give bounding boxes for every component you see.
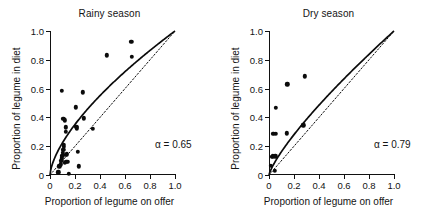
y-tick-label-dry-0: 0 xyxy=(258,170,263,181)
y-tick-label-rainy-3: 0.6 xyxy=(31,83,44,94)
y-tick-dry-1 xyxy=(265,146,269,147)
data-point xyxy=(67,171,71,175)
x-axis-title-rainy: Proportion of legume on offer xyxy=(0,196,219,207)
y-tick-label-dry-5: 1.0 xyxy=(250,26,263,37)
x-tick-label-rainy-4: 0.8 xyxy=(143,180,156,191)
y-tick-label-dry-4: 0.8 xyxy=(250,54,263,65)
y-tick-label-rainy-0: 0 xyxy=(39,170,44,181)
x-tick-rainy-0 xyxy=(50,175,51,179)
y-tick-rainy-2 xyxy=(46,117,50,118)
y-tick-label-dry-2: 0.4 xyxy=(250,112,263,123)
y-tick-label-rainy-2: 0.4 xyxy=(31,112,44,123)
y-tick-dry-2 xyxy=(265,117,269,118)
x-tick-label-rainy-2: 0.4 xyxy=(93,180,106,191)
panel-title-dry: Dry season xyxy=(219,8,438,19)
x-tick-label-dry-5: 1.0 xyxy=(387,180,400,191)
curve-layer-rainy xyxy=(50,31,175,175)
x-tick-dry-1 xyxy=(294,175,295,179)
x-tick-rainy-5 xyxy=(175,175,176,179)
x-tick-label-rainy-1: 0.2 xyxy=(68,180,81,191)
y-axis-title-rainy: Proportion of legume in diet xyxy=(11,29,22,189)
x-tick-label-dry-2: 0.4 xyxy=(312,180,325,191)
identity-line-rainy xyxy=(50,31,175,175)
alpha-annotation-dry: α = 0.79 xyxy=(374,139,411,150)
alpha-annotation-rainy: α = 0.65 xyxy=(155,139,192,150)
x-tick-dry-4 xyxy=(369,175,370,179)
y-tick-label-rainy-4: 0.8 xyxy=(31,54,44,65)
y-tick-rainy-4 xyxy=(46,60,50,61)
x-tick-rainy-4 xyxy=(150,175,151,179)
x-tick-label-rainy-0: 0 xyxy=(47,180,52,191)
x-tick-label-dry-0: 0 xyxy=(266,180,271,191)
y-tick-label-dry-1: 0.2 xyxy=(250,141,263,152)
identity-line-dry xyxy=(269,31,394,175)
x-tick-dry-0 xyxy=(269,175,270,179)
y-tick-rainy-5 xyxy=(46,31,50,32)
x-tick-label-dry-3: 0.6 xyxy=(337,180,350,191)
y-tick-rainy-1 xyxy=(46,146,50,147)
figure-two-panel-scatter: Rainy season 00.20.40.60.81.000.20.40.60… xyxy=(0,0,439,224)
curve-layer-dry xyxy=(269,31,394,175)
y-tick-label-rainy-1: 0.2 xyxy=(31,141,44,152)
panel-dry-season: Dry season 00.20.40.60.81.000.20.40.60.8… xyxy=(219,0,438,224)
plot-area-dry: 00.20.40.60.81.000.20.40.60.81.0 xyxy=(269,31,394,175)
x-tick-dry-5 xyxy=(394,175,395,179)
y-tick-label-rainy-5: 1.0 xyxy=(31,26,44,37)
x-tick-dry-2 xyxy=(319,175,320,179)
y-axis-title-dry: Proportion of legume in diet xyxy=(230,29,241,189)
x-tick-rainy-3 xyxy=(125,175,126,179)
x-tick-rainy-2 xyxy=(100,175,101,179)
y-tick-rainy-3 xyxy=(46,89,50,90)
y-tick-dry-5 xyxy=(265,31,269,32)
panel-rainy-season: Rainy season 00.20.40.60.81.000.20.40.60… xyxy=(0,0,219,224)
x-tick-label-dry-1: 0.2 xyxy=(287,180,300,191)
x-tick-rainy-1 xyxy=(75,175,76,179)
y-tick-label-dry-3: 0.6 xyxy=(250,83,263,94)
x-axis-title-dry: Proportion of legume on offer xyxy=(219,196,438,207)
x-tick-label-dry-4: 0.8 xyxy=(362,180,375,191)
x-tick-label-rainy-3: 0.6 xyxy=(118,180,131,191)
x-tick-dry-3 xyxy=(344,175,345,179)
panel-title-rainy: Rainy season xyxy=(0,8,219,19)
x-tick-label-rainy-5: 1.0 xyxy=(168,180,181,191)
y-tick-dry-4 xyxy=(265,60,269,61)
plot-area-rainy: 00.20.40.60.81.000.20.40.60.81.0 xyxy=(50,31,175,175)
y-tick-dry-3 xyxy=(265,89,269,90)
